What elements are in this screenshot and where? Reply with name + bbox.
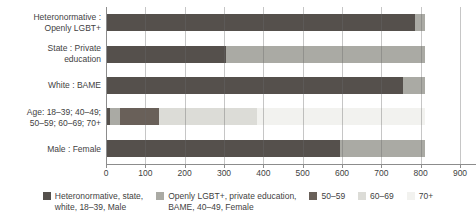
tick-label: 0 <box>104 168 109 178</box>
tick-label: 600 <box>335 168 349 178</box>
legend-item: 50–59 <box>309 191 345 202</box>
bar-row <box>106 7 476 38</box>
category-label: State : Private education <box>0 39 106 71</box>
bar-segment <box>226 46 425 63</box>
legend-label: 70+ <box>419 191 433 202</box>
stacked-bar-chart: Heteronormative : Openly LGBT+State : Pr… <box>0 0 476 224</box>
bar-segment <box>106 46 226 63</box>
legend-swatch <box>358 192 366 200</box>
bar-segment <box>120 108 159 125</box>
legend-item: Openly LGBT+, private education, BAME, 4… <box>156 191 296 213</box>
bar-segment <box>106 77 403 94</box>
legend-item: Heteronormative, state, white, 18–39, Ma… <box>43 191 143 213</box>
tick-label: 700 <box>374 168 388 178</box>
stacked-bar <box>106 108 425 125</box>
stacked-bar <box>106 77 425 94</box>
tick-label: 200 <box>178 168 192 178</box>
legend-item: 60–69 <box>358 191 394 202</box>
legend-swatch <box>309 192 317 200</box>
bar-row <box>106 70 476 101</box>
tick-label: 900 <box>453 168 467 178</box>
x-axis: 0100200300400500600700800900 <box>106 165 476 181</box>
stacked-bar <box>106 140 425 157</box>
bar-row <box>106 101 476 132</box>
legend-item: 70+ <box>407 191 433 202</box>
bar-segment <box>257 108 424 125</box>
tick-label: 500 <box>296 168 310 178</box>
legend-swatch <box>407 192 415 200</box>
bar-segment <box>106 140 340 157</box>
category-labels: Heteronormative : Openly LGBT+State : Pr… <box>0 7 106 165</box>
legend-label: 60–69 <box>370 191 394 202</box>
legend-swatch <box>43 192 51 200</box>
bars <box>106 7 476 164</box>
bar-segment <box>340 140 425 157</box>
bar-row <box>106 133 476 164</box>
tick-label: 300 <box>217 168 231 178</box>
stacked-bar <box>106 14 425 31</box>
bar-segment <box>110 108 120 125</box>
stacked-bar <box>106 46 425 63</box>
bar-segment <box>403 77 425 94</box>
legend-swatch <box>156 192 164 200</box>
category-label: Heteronormative : Openly LGBT+ <box>0 7 106 39</box>
bar-segment <box>415 14 425 31</box>
legend-label: 50–59 <box>321 191 345 202</box>
plot-area <box>106 7 476 165</box>
bar-segment <box>106 14 415 31</box>
category-label: Age: 18–39; 40–49; 50–59; 60–69; 70+ <box>0 102 106 134</box>
category-label: White : BAME <box>0 70 106 102</box>
chart-area: Heteronormative : Openly LGBT+State : Pr… <box>0 7 476 165</box>
bar-segment <box>159 108 257 125</box>
tick-label: 100 <box>138 168 152 178</box>
category-label: Male : Female <box>0 133 106 165</box>
bar-row <box>106 38 476 69</box>
legend-label: Heteronormative, state, white, 18–39, Ma… <box>55 191 143 213</box>
tick-label: 800 <box>414 168 428 178</box>
legend-label: Openly LGBT+, private education, BAME, 4… <box>168 191 296 213</box>
legend: Heteronormative, state, white, 18–39, Ma… <box>0 191 476 213</box>
tick-label: 400 <box>256 168 270 178</box>
